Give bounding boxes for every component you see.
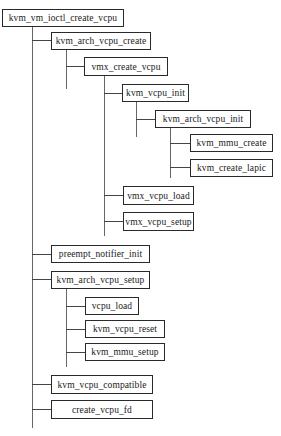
connector-to-kvm-arch-vcpu-setup [32, 279, 51, 280]
connector-to-create-vcpu-fd [32, 409, 51, 410]
node-kvm-vm-ioctl-create-vcpu: kvm_vm_ioctl_create_vcpu [2, 9, 124, 27]
connector-to-kvm-vcpu-init [104, 93, 122, 94]
node-kvm-arch-vcpu-setup: kvm_arch_vcpu_setup [51, 271, 150, 289]
connector-kvm-arch-vcpu-create-trunk [66, 50, 67, 89]
connector-to-vcpu-load [66, 306, 85, 307]
connector-to-vmx-create-vcpu [66, 66, 84, 67]
connector-to-kvm-mmu-setup [66, 352, 85, 353]
node-vmx-vcpu-setup: vmx_vcpu_setup [123, 212, 194, 231]
connector-kvm-arch-vcpu-setup-trunk [66, 288, 67, 367]
node-kvm-vcpu-compatible: kvm_vcpu_compatible [51, 375, 153, 394]
node-kvm-create-lapic: kvm_create_lapic [190, 159, 273, 177]
connector-to-kvm-vcpu-reset [66, 329, 85, 330]
connector-to-kvm-arch-vcpu-init [136, 119, 155, 120]
node-kvm-vcpu-reset: kvm_vcpu_reset [85, 320, 165, 338]
node-kvm-mmu-setup: kvm_mmu_setup [85, 343, 165, 361]
node-kvm-vcpu-init: kvm_vcpu_init [122, 84, 189, 102]
node-create-vcpu-fd: create_vcpu_fd [51, 400, 153, 419]
connector-to-preempt-notifier-init [32, 254, 51, 255]
connector-to-kvm-arch-vcpu-create [32, 40, 51, 41]
connector-root-trunk [32, 26, 33, 428]
connector-to-vmx-vcpu-load [104, 195, 123, 196]
connector-to-kvm-mmu-create [170, 143, 190, 144]
node-kvm-mmu-create: kvm_mmu_create [190, 134, 273, 152]
connector-to-kvm-create-lapic [170, 167, 190, 168]
node-vcpu-load: vcpu_load [85, 297, 139, 315]
node-kvm-arch-vcpu-init: kvm_arch_vcpu_init [155, 110, 251, 128]
node-kvm-arch-vcpu-create: kvm_arch_vcpu_create [51, 32, 151, 50]
node-vmx-vcpu-load: vmx_vcpu_load [123, 186, 194, 205]
connector-kvm-arch-vcpu-init-trunk [170, 128, 171, 178]
connector-to-vmx-vcpu-setup [104, 221, 123, 222]
connector-vmx-create-vcpu-trunk [104, 76, 105, 236]
connector-to-kvm-vcpu-compatible [32, 384, 51, 385]
node-preempt-notifier-init: preempt_notifier_init [51, 245, 150, 263]
node-vmx-create-vcpu: vmx_create_vcpu [84, 57, 168, 76]
